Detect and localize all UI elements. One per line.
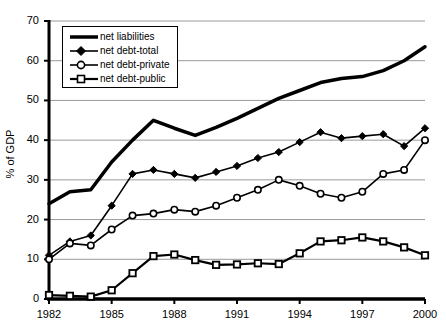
data-point-marker (401, 244, 407, 250)
y-axis-tick-label: 40 (13, 133, 39, 145)
data-point-marker (422, 252, 428, 258)
x-axis-tick-label: 2000 (403, 308, 446, 320)
legend-item-net-debt-total: net debt-total (63, 44, 177, 58)
y-axis-label: % of GDP (4, 122, 16, 186)
data-point-marker (150, 253, 156, 259)
data-point-marker (338, 195, 344, 201)
x-axis-tick-label: 1988 (152, 308, 196, 320)
legend-label-net-liabilities: net liabilities (100, 30, 154, 44)
x-axis-tick-label: 1994 (278, 308, 322, 320)
data-point-marker (129, 270, 135, 276)
chart-legend: net liabilities net debt-total net debt-… (62, 26, 178, 88)
chart-container: 010203040506070 198219851988199119941997… (0, 0, 446, 335)
data-point-marker (46, 292, 52, 298)
data-point-marker (67, 293, 73, 299)
y-axis-tick-label: 70 (13, 14, 39, 26)
y-axis-tick-label: 0 (13, 292, 39, 304)
data-point-marker (213, 262, 219, 268)
data-point-marker (359, 133, 366, 140)
legend-swatch-thick-line (68, 30, 100, 44)
data-point-marker (401, 167, 407, 173)
data-point-marker (233, 162, 240, 169)
data-point-marker (150, 210, 156, 216)
data-point-marker (46, 256, 52, 262)
legend-swatch-circle-open (68, 58, 100, 72)
data-point-marker (338, 135, 345, 142)
x-axis-tick-label: 1991 (215, 308, 259, 320)
data-point-marker (255, 187, 261, 193)
data-point-marker (234, 195, 240, 201)
data-point-marker (380, 171, 386, 177)
data-point-marker (150, 166, 157, 173)
data-point-marker (380, 131, 387, 138)
legend-item-net-debt-public: net debt-public (63, 72, 177, 86)
data-point-marker (192, 208, 198, 214)
data-point-marker (296, 139, 303, 146)
data-point-marker (254, 154, 261, 161)
data-point-marker (359, 234, 365, 240)
x-axis-tick-label: 1997 (340, 308, 384, 320)
data-point-marker (67, 240, 73, 246)
y-axis-tick-label: 20 (13, 213, 39, 225)
data-point-marker (192, 174, 199, 181)
legend-label-net-debt-total: net debt-total (100, 44, 158, 58)
legend-item-net-liabilities: net liabilities (63, 30, 177, 44)
data-point-marker (255, 260, 261, 266)
data-point-marker (276, 177, 282, 183)
data-point-marker (108, 287, 114, 293)
legend-swatch-diamond-filled (68, 44, 100, 58)
y-axis-tick-label: 30 (13, 173, 39, 185)
legend-label-net-debt-private: net debt-private (100, 58, 170, 72)
data-point-marker (88, 293, 94, 299)
data-point-marker (422, 137, 428, 143)
legend-label-net-debt-public: net debt-public (100, 72, 166, 86)
data-point-marker (129, 212, 135, 218)
y-axis-tick-label: 50 (13, 93, 39, 105)
data-point-marker (171, 170, 178, 177)
data-point-marker (359, 189, 365, 195)
series-line-net-debt-total (49, 128, 425, 255)
legend-swatch-square-open (68, 72, 100, 86)
data-point-marker (317, 191, 323, 197)
y-axis-tick-label: 60 (13, 54, 39, 66)
data-point-marker (171, 206, 177, 212)
data-point-marker (317, 238, 323, 244)
data-point-marker (275, 148, 282, 155)
data-point-marker (276, 261, 282, 267)
data-point-marker (296, 250, 302, 256)
data-point-marker (192, 257, 198, 263)
y-axis-tick-label: 10 (13, 252, 39, 264)
legend-item-net-debt-private: net debt-private (63, 58, 177, 72)
data-point-marker (338, 237, 344, 243)
x-axis-tick-label: 1985 (90, 308, 134, 320)
data-point-marker (380, 238, 386, 244)
data-point-marker (88, 242, 94, 248)
x-axis-tick-label: 1982 (27, 308, 71, 320)
data-point-marker (108, 226, 114, 232)
data-point-marker (213, 202, 219, 208)
data-point-marker (234, 261, 240, 267)
data-point-marker (213, 168, 220, 175)
data-point-marker (171, 251, 177, 257)
data-point-marker (317, 129, 324, 136)
data-point-marker (296, 183, 302, 189)
